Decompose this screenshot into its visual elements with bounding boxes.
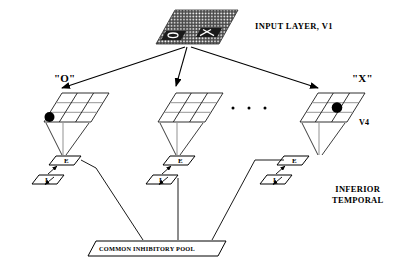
excitatory-label-o: E — [64, 157, 69, 165]
inferior-temporal-line2: TEMPORAL — [332, 195, 384, 205]
funnel-middle — [160, 123, 203, 155]
inhibitory-label-x: I — [273, 176, 276, 184]
active-unit-o — [45, 112, 55, 122]
funnel-o — [46, 123, 89, 155]
excitatory-label-middle: E — [178, 157, 183, 165]
inferior-temporal-label: INFERIOR TEMPORAL — [332, 184, 384, 206]
active-unit-x — [332, 102, 343, 113]
funnel-x — [302, 123, 345, 155]
inferior-temporal-line1: INFERIOR — [335, 184, 380, 194]
pool-link-x — [212, 160, 255, 240]
e-outlink-o — [81, 160, 96, 168]
inhibitory-unit-middle — [146, 175, 178, 184]
v1-to-v4-arrows — [62, 47, 318, 88]
inhibitory-unit-o — [32, 175, 64, 184]
column-o-label: "O" — [54, 72, 75, 84]
diagram-canvas: INPUT LAYER, V1 "O" "X" V4 INFERIOR TEMP… — [0, 0, 410, 277]
excitatory-label-x: E — [292, 157, 297, 165]
column-o-group — [32, 93, 143, 240]
v4-area-label: V4 — [359, 118, 369, 127]
inhibitory-label-middle: I — [159, 176, 162, 184]
input-layer-label: INPUT LAYER, V1 — [255, 21, 333, 31]
input-layer-v1-grid — [156, 10, 238, 44]
common-inhibitory-pool-label: COMMON INHIBITORY POOL — [99, 245, 195, 252]
column-x-group — [212, 93, 365, 240]
ellipsis-dots — [232, 107, 267, 110]
inhibitory-label-o: I — [45, 176, 48, 184]
inhibitory-unit-x — [260, 175, 292, 184]
diagram-vector-layer — [0, 0, 410, 277]
pool-link-o — [96, 168, 143, 240]
column-middle-group — [146, 93, 223, 240]
column-x-label: "X" — [352, 72, 373, 84]
v4-sheet-middle — [158, 93, 223, 122]
